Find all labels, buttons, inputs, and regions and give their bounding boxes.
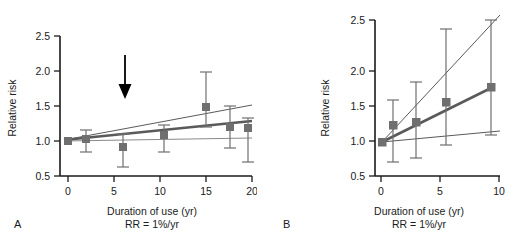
panel-a-trend-lines: [64, 105, 252, 141]
panel-a-plot: Relative risk 0.5 1.0 1.5: [0, 0, 257, 240]
panel-b-trend-lines: [382, 15, 500, 142]
panel-b-marker: [412, 118, 421, 127]
panel-b-errorbar: [387, 100, 399, 162]
panel-a-xtick-4: 20: [246, 185, 257, 197]
down-arrow-annotation-icon: [119, 55, 132, 99]
panel-a-marker: [119, 143, 127, 151]
panel-a-letter: A: [14, 218, 22, 230]
panel-a-xlabel: Duration of use (yr): [107, 205, 197, 217]
panel-a-ytick-0: 0.5: [35, 170, 50, 182]
panel-b-marker: [378, 138, 387, 147]
panel-b-errorbar: [440, 29, 452, 145]
panel-a-xtick-2: 10: [154, 185, 166, 197]
panel-a-rr-label: RR = 1%/yr: [62, 218, 242, 231]
panel-b-ytick-1: 1.0: [350, 135, 365, 147]
panel-b-letter: B: [283, 218, 291, 230]
panel-a-marker: [226, 123, 234, 131]
panel-b-ytick-4: 2.5: [350, 14, 365, 26]
panel-b: Relative risk 0.5 1.0 1.5 2.0 2.5 0 5 10: [257, 0, 514, 240]
panel-b-xtick-2: 10: [493, 185, 505, 197]
panel-b-errorbar: [485, 20, 497, 135]
panel-b-marker: [389, 121, 398, 130]
panel-b-plot: Relative risk 0.5 1.0 1.5 2.0 2.5 0 5 10: [257, 0, 514, 240]
panel-a-ytick-3: 2.0: [35, 65, 50, 77]
panel-a-ytick-4: 2.5: [35, 30, 50, 42]
panel-a-ytick-1: 1.0: [35, 135, 50, 147]
panel-b-x-caption: Duration of use (yr) RR = 1%/yr: [329, 205, 509, 230]
panel-a: Relative risk 0.5 1.0 1.5: [0, 0, 257, 240]
panel-a-y-axis-title: Relative risk: [6, 79, 18, 137]
panel-a-ytick-2: 1.5: [35, 100, 50, 112]
panel-b-xtick-1: 5: [437, 185, 443, 197]
panel-a-marker: [82, 135, 90, 143]
panel-a-errorbar: [200, 72, 212, 127]
panel-b-ytick-0: 0.5: [350, 170, 365, 182]
panel-a-x-caption: Duration of use (yr) RR = 1%/yr: [62, 205, 242, 230]
panel-b-rr-label: RR = 1%/yr: [329, 218, 509, 231]
panel-b-marker: [487, 83, 496, 92]
panel-b-xlabel: Duration of use (yr): [374, 205, 464, 217]
figure-container: Relative risk 0.5 1.0 1.5: [0, 0, 514, 240]
panel-b-ytick-2: 1.5: [350, 100, 365, 112]
panel-b-y-axis-title: Relative risk: [319, 79, 331, 137]
panel-a-xtick-1: 5: [111, 185, 117, 197]
panel-b-marker: [442, 98, 451, 107]
panel-b-axes: [369, 20, 500, 182]
panel-a-marker: [160, 131, 168, 139]
panel-a-data: [64, 72, 254, 167]
panel-a-marker: [202, 103, 210, 111]
panel-b-xtick-0: 0: [378, 185, 384, 197]
panel-a-marker: [244, 124, 252, 132]
panel-a-xtick-0: 0: [65, 185, 71, 197]
panel-a-marker: [64, 137, 72, 145]
panel-a-axes: [54, 36, 252, 182]
panel-a-xtick-3: 15: [200, 185, 212, 197]
panel-b-ytick-3: 2.0: [350, 65, 365, 77]
